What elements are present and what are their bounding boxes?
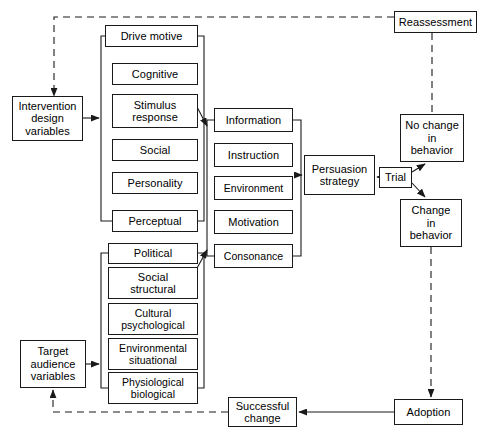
node-drive-motive[interactable]: Drive motive bbox=[105, 25, 198, 47]
node-physiological-biological[interactable]: Physiological biological bbox=[108, 372, 198, 404]
node-intervention-design-variables[interactable]: Intervention design variables bbox=[12, 96, 83, 141]
edge-trial-to-change bbox=[412, 183, 425, 197]
node-reassessment[interactable]: Reassessment bbox=[394, 11, 477, 33]
node-persuasion-strategy[interactable]: Persuasion strategy bbox=[304, 155, 375, 195]
node-successful-change[interactable]: Successful change bbox=[228, 397, 297, 427]
node-stimulus-response[interactable]: Stimulus response bbox=[112, 94, 198, 128]
flowchart-diagram: Intervention design variables Target aud… bbox=[0, 0, 480, 438]
node-perceptual[interactable]: Perceptual bbox=[112, 210, 198, 232]
node-no-change-in-behavior[interactable]: No change in behavior bbox=[400, 114, 464, 162]
node-political[interactable]: Political bbox=[108, 243, 198, 264]
node-target-audience-variables[interactable]: Target audience variables bbox=[20, 340, 86, 388]
node-instruction[interactable]: Instruction bbox=[214, 143, 293, 167]
edge-trial-to-no-change bbox=[412, 164, 425, 172]
node-social-structural[interactable]: Social structural bbox=[108, 267, 198, 299]
node-personality[interactable]: Personality bbox=[112, 172, 198, 194]
node-cognitive[interactable]: Cognitive bbox=[112, 63, 198, 85]
node-environment[interactable]: Environment bbox=[214, 176, 293, 200]
node-adoption[interactable]: Adoption bbox=[394, 399, 463, 425]
node-environmental-situational[interactable]: Environmental situational bbox=[108, 338, 198, 370]
node-consonance[interactable]: Consonance bbox=[214, 244, 293, 268]
node-trial[interactable]: Trial bbox=[379, 167, 412, 188]
node-cultural-psychological[interactable]: Cultural psychological bbox=[108, 303, 198, 335]
node-social[interactable]: Social bbox=[112, 139, 198, 161]
node-motivation[interactable]: Motivation bbox=[214, 210, 293, 234]
node-change-in-behavior[interactable]: Change in behavior bbox=[400, 199, 462, 247]
node-information[interactable]: Information bbox=[214, 108, 293, 132]
